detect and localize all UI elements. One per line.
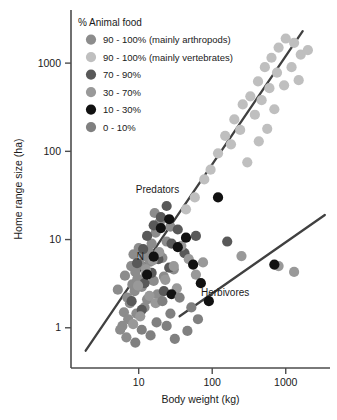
x-axis-title: Body weight (kg) [161,393,239,405]
data-point-p10_30 [188,260,198,270]
data-point-vertebrate [205,165,215,175]
y-tick-label: 10 [49,233,61,245]
data-point-p0_10 [165,308,175,318]
data-point-vertebrate [294,75,304,85]
data-point-vertebrate [181,204,191,214]
data-point-p10_30 [181,233,191,243]
data-point-p0_10 [182,326,192,336]
legend-item-label-4: 10 - 30% [103,104,142,115]
data-point-vertebrate [199,174,209,184]
data-point-p0_10 [137,325,147,335]
data-point-p0_10 [193,314,203,324]
data-point-p0_10 [145,330,155,340]
data-point-p30_70 [128,319,138,329]
x-tick-label: 10 [133,376,145,388]
data-point-p70_90 [142,231,152,241]
x-tick-label: 100 [203,376,221,388]
data-point-p30_70 [133,281,143,291]
data-point-arthropod [121,332,131,342]
data-point-arthropod [113,285,123,295]
y-axis-title: Home range size (ha) [12,139,24,240]
scatter-plot-svg: 1101001000101001000Body weight (kg)Home … [0,0,337,420]
data-point-p0_10 [151,317,161,327]
data-point-p0_10 [186,302,196,312]
data-point-vertebrate [229,114,239,124]
data-point-arthropod [120,271,130,281]
data-point-vertebrate [253,76,263,86]
data-point-p30_70 [198,257,208,267]
data-point-p30_70 [135,311,145,321]
data-point-p30_70 [169,261,179,271]
annotation-herbivores: Herbivores [201,287,249,298]
data-point-p10_30 [156,223,166,233]
data-point-p30_70 [236,251,246,261]
legend-item-label-2: 70 - 90% [103,69,142,80]
data-point-vertebrate [226,139,236,149]
data-point-p0_10 [174,292,184,302]
legend-marker-1 [86,52,96,62]
legend-marker-2 [86,70,96,80]
data-point-vertebrate [262,124,272,134]
annotation-n: N [137,251,144,262]
data-point-p10_30 [164,214,174,224]
data-point-p0_10 [157,296,167,306]
legend-item-label-3: 30 - 70% [103,87,142,98]
data-point-vertebrate [286,62,296,72]
data-point-vertebrate [279,80,289,90]
data-point-vertebrate [220,131,230,141]
data-point-vertebrate [213,148,223,158]
data-point-vertebrate [272,68,282,78]
data-point-p70_90 [162,201,172,211]
data-point-p70_90 [191,231,201,241]
data-point-p70_90 [173,224,183,234]
data-point-vertebrate [266,53,276,63]
data-point-vertebrate [289,38,299,48]
data-point-vertebrate [245,91,255,101]
chart-figure: 1101001000101001000Body weight (kg)Home … [0,0,337,420]
annotation-predators: Predators [136,184,179,195]
data-point-p30_70 [289,267,299,277]
y-tick-label: 1000 [38,57,62,69]
data-point-p10_30 [142,270,152,280]
y-tick-label: 100 [43,145,61,157]
data-point-p10_30 [269,260,279,270]
data-point-p70_90 [126,296,136,306]
legend-item-label-5: 0 - 10% [103,122,136,133]
data-point-p0_10 [130,337,140,347]
data-point-vertebrate [274,42,284,52]
data-point-p10_30 [213,192,223,202]
data-point-vertebrate [242,157,252,167]
data-point-vertebrate [260,62,270,72]
data-point-p10_30 [173,242,183,252]
data-point-p30_70 [160,275,170,285]
x-tick-label: 1000 [274,376,298,388]
legend-group: % Animal food90 - 100% (mainly arthropod… [78,17,233,133]
legend-marker-3 [86,87,96,97]
data-point-vertebrate [269,104,279,114]
legend-title: % Animal food [78,17,142,28]
data-point-p0_10 [162,321,172,331]
data-point-vertebrate [190,192,200,202]
legend-item-label-0: 90 - 100% (mainly arthropods) [103,34,231,45]
legend-marker-5 [86,122,96,132]
legend-marker-0 [86,35,96,45]
y-tick-label: 1 [55,321,61,333]
data-point-vertebrate [264,83,274,93]
data-point-vertebrate [303,45,313,55]
data-point-vertebrate [235,125,245,135]
legend-item-label-1: 90 - 100% (mainly vertebrates) [103,52,233,63]
data-point-p10_30 [149,252,159,262]
data-point-vertebrate [257,95,267,105]
data-point-p0_10 [170,334,180,344]
data-point-p30_70 [191,270,201,280]
data-point-vertebrate [250,110,260,120]
data-point-vertebrate [238,99,248,109]
data-point-p70_90 [222,236,232,246]
legend-marker-4 [86,105,96,115]
data-point-vertebrate [254,136,264,146]
